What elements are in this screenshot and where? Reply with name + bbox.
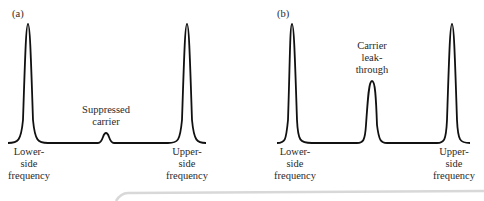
panel-a-tag: (a): [12, 8, 24, 19]
label-line: carrier: [76, 116, 136, 128]
dsb-spectrum-figure: (a) Lower- side frequency Suppressed car…: [0, 0, 484, 201]
label-line: frequency: [6, 170, 52, 182]
label-line: frequency: [272, 170, 318, 182]
panel-b-carrier-leak-through-label: Carrier leak- through: [347, 40, 397, 76]
panel-a-upper-sideband-label: Upper- side frequency: [164, 146, 210, 182]
label-line: Upper-: [431, 146, 477, 158]
label-line: frequency: [431, 170, 477, 182]
page-edge-shadow: [116, 191, 484, 201]
label-line: frequency: [164, 170, 210, 182]
panel-b-lower-sideband-label: Lower- side frequency: [272, 146, 318, 182]
panel-a-suppressed-carrier-label: Suppressed carrier: [76, 104, 136, 128]
panel-b-tag: (b): [277, 8, 289, 19]
label-line: Upper-: [164, 146, 210, 158]
label-line: side: [272, 158, 318, 170]
panel-a-lower-sideband-label: Lower- side frequency: [6, 146, 52, 182]
label-line: through: [347, 64, 397, 76]
label-line: Lower-: [272, 146, 318, 158]
label-line: Lower-: [6, 146, 52, 158]
label-line: side: [6, 158, 52, 170]
label-line: Carrier: [347, 40, 397, 52]
label-line: leak-: [347, 52, 397, 64]
label-line: Suppressed: [76, 104, 136, 116]
spectrum-traces: [0, 0, 484, 201]
label-line: side: [164, 158, 210, 170]
panel-b-upper-sideband-label: Upper- side frequency: [431, 146, 477, 182]
label-line: side: [431, 158, 477, 170]
